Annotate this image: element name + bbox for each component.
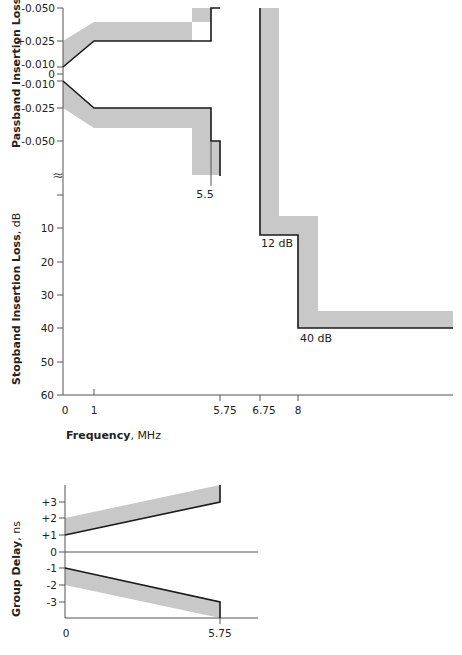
stopband-ylabel: Stopband Insertion Loss, dB: [10, 213, 23, 385]
tick-label: -3: [47, 596, 57, 608]
passband-upper-band: [63, 8, 211, 67]
annotation-40db: 40 dB: [300, 332, 332, 345]
tick-label: -0.050: [21, 135, 55, 147]
group-delay-chart: +3 +2 +1 0 -1 -2 -3 0 5.75 Group Delay, …: [10, 485, 258, 639]
tick-label: 0: [50, 546, 57, 558]
tick-label: 60: [41, 389, 54, 401]
tick-label: -0.025: [21, 102, 55, 114]
tick-label: 0: [62, 404, 69, 416]
gd-y-tick-labels: +3 +2 +1 0 -1 -2 -3: [42, 496, 57, 608]
axis-break-icon: ≈: [52, 167, 64, 183]
gd-x-tick-labels: 0 5.75: [63, 627, 232, 639]
gd-upper-band: [65, 485, 220, 535]
gd-ylabel: Group Delay, ns: [10, 521, 23, 617]
tick-label: +3: [42, 496, 57, 508]
x-tick-labels: 0 1 5.75 6.75 8: [62, 404, 302, 416]
tick-label: 0: [63, 627, 70, 639]
passband-lower-band: [63, 81, 220, 175]
tick-label: -0.010: [21, 78, 55, 90]
tick-label: 30: [41, 289, 54, 301]
tick-label: 8: [295, 404, 302, 416]
tick-label: 40: [41, 322, 54, 334]
x-axis-title: Frequency, MHz: [66, 429, 161, 442]
tick-label: 5.75: [208, 627, 231, 639]
tick-label: 50: [41, 356, 54, 368]
annotation-12db: 12 dB: [261, 237, 293, 250]
tick-label: -0.050: [21, 2, 55, 14]
stopband-band: [260, 8, 453, 328]
stopband-y-ticks: [57, 228, 63, 395]
stopband-limit: [260, 8, 453, 328]
filter-spec-figure: -0.050 +0.025 -0.010 0 -0.010 -0.025 -0.…: [0, 0, 462, 655]
tick-label: 5.75: [213, 404, 236, 416]
passband-ylabel: Passband Insertion Loss, dB: [10, 0, 23, 148]
tick-label: 10: [41, 222, 54, 234]
tick-label: -1: [47, 562, 57, 574]
annotation-5-5: 5.5: [196, 188, 214, 201]
tick-label: 20: [41, 256, 54, 268]
insertion-loss-chart: -0.050 +0.025 -0.010 0 -0.010 -0.025 -0.…: [10, 0, 453, 442]
tick-label: 1: [91, 404, 98, 416]
gd-lower-band: [65, 568, 220, 618]
tick-label: -2: [47, 579, 57, 591]
tick-label: +1: [42, 529, 57, 541]
tick-label: 6.75: [252, 404, 275, 416]
stopband-y-tick-labels: 10 20 30 40 50 60: [41, 222, 54, 401]
tick-label: +2: [42, 512, 57, 524]
